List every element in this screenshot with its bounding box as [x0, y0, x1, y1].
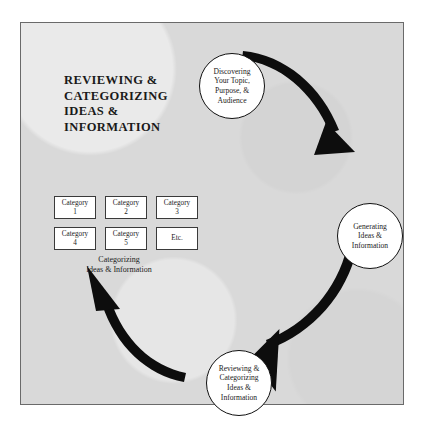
arrow-reviewing-to-categories [87, 266, 186, 382]
category-grid-caption: Categorizing Ideas & Information [49, 255, 189, 275]
category-box: Category 4 [54, 227, 96, 250]
category-box: Category 5 [105, 227, 147, 250]
cycle-node-generating: Generating Ideas & Information [337, 203, 403, 269]
category-box: Category 2 [105, 196, 147, 219]
diagram-panel: REVIEWING & CATEGORIZING IDEAS & INFORMA… [20, 22, 404, 405]
cycle-node-discovering: Discovering Your Topic, Purpose, & Audie… [199, 53, 265, 119]
figure-page: REVIEWING & CATEGORIZING IDEAS & INFORMA… [0, 0, 424, 428]
category-box: Category 1 [54, 196, 96, 219]
category-box: Category 3 [156, 196, 198, 219]
cycle-node-reviewing: Reviewing & Categorizing Ideas & Informa… [206, 350, 272, 416]
category-grid: Category 1 Category 2 Category 3 Categor… [54, 196, 198, 250]
category-box: Etc. [156, 227, 198, 250]
